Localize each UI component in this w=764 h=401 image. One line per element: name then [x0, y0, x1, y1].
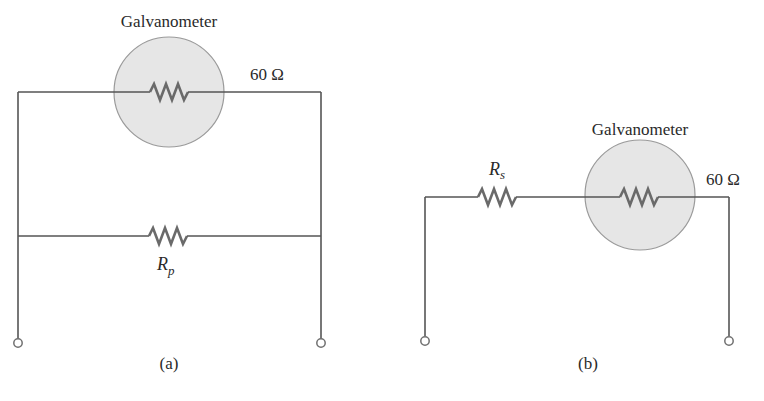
caption-a: (a)	[160, 354, 179, 373]
shunt-resistor-rp	[149, 228, 187, 244]
panel-a: Galvanometer 60 Ω Rp (a)	[14, 12, 325, 373]
series-resistor-label: Rs	[488, 159, 505, 182]
meter-resistance-label-a: 60 Ω	[250, 65, 284, 84]
panel-b: Galvanometer 60 Ω Rs (b)	[421, 120, 740, 373]
circuit-diagram: Galvanometer 60 Ω Rp (a) Galvanometer 60…	[0, 0, 764, 401]
shunt-resistor-label: Rp	[156, 254, 175, 278]
series-resistor-rs	[478, 189, 516, 205]
meter-resistance-label-b: 60 Ω	[706, 170, 740, 189]
terminal-right-a	[317, 339, 325, 347]
terminal-left-a	[14, 339, 22, 347]
galvanometer-label-a: Galvanometer	[121, 12, 218, 31]
terminal-right-b	[725, 337, 733, 345]
galvanometer-circle-b	[585, 140, 695, 250]
caption-b: (b)	[578, 354, 598, 373]
galvanometer-label-b: Galvanometer	[592, 120, 689, 139]
terminal-left-b	[421, 337, 429, 345]
